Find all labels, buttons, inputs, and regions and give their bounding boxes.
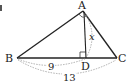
- side-AB: [17, 11, 83, 58]
- label-C: C: [118, 52, 126, 65]
- label-9: 9: [48, 61, 54, 72]
- label-13: 13: [63, 72, 76, 83]
- label-x: x: [89, 31, 95, 42]
- label-D: D: [81, 60, 90, 73]
- label-A: A: [77, 0, 87, 12]
- label-B: B: [5, 52, 13, 65]
- edge-mark: [0, 5, 2, 11]
- altitude-AD: [84, 12, 86, 58]
- right-angle-mark: [80, 52, 86, 58]
- triangle-diagram: A B C D x 9 13: [0, 0, 127, 84]
